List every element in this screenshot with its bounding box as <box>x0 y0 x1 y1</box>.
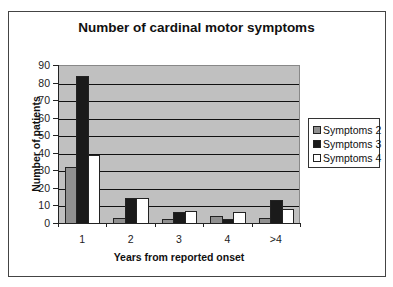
legend-swatch-symptoms-4 <box>313 154 321 162</box>
y-tick <box>53 188 58 189</box>
bar <box>185 211 198 224</box>
y-axis-title: Number of patients <box>30 84 42 204</box>
gridline <box>58 101 299 102</box>
x-tick <box>252 223 253 227</box>
y-tick <box>53 65 58 66</box>
legend-swatch-symptoms-2 <box>313 126 321 134</box>
y-tick <box>53 205 58 206</box>
chart-title: Number of cardinal motor symptoms <box>0 20 393 35</box>
x-tick-label: >4 <box>252 233 300 245</box>
legend-label: Symptoms 3 <box>323 138 381 150</box>
x-tick <box>203 223 204 227</box>
bar <box>233 212 246 224</box>
gridline <box>58 119 299 120</box>
y-tick <box>53 135 58 136</box>
x-tick-label: 2 <box>107 233 155 245</box>
legend-label: Symptoms 2 <box>323 124 381 136</box>
x-tick-label: 3 <box>155 233 203 245</box>
x-tick <box>106 223 107 227</box>
bar <box>88 155 101 224</box>
gridline <box>58 136 299 137</box>
legend-label: Symptoms 4 <box>323 152 381 164</box>
x-tick <box>58 223 59 227</box>
legend-item-symptoms-3: Symptoms 3 <box>313 137 381 151</box>
bar <box>136 198 149 224</box>
legend-item-symptoms-2: Symptoms 2 <box>313 123 381 137</box>
y-tick <box>53 153 58 154</box>
bar <box>282 209 295 224</box>
x-axis-title: Years from reported onset <box>58 251 300 263</box>
gridline <box>58 84 299 85</box>
legend: Symptoms 2 Symptoms 3 Symptoms 4 <box>308 118 380 168</box>
y-tick <box>53 100 58 101</box>
legend-swatch-symptoms-3 <box>313 140 321 148</box>
y-tick <box>53 170 58 171</box>
y-tick-label: 0 <box>26 217 50 229</box>
x-tick-label: 4 <box>203 233 251 245</box>
x-tick <box>300 223 301 227</box>
y-tick-label: 90 <box>26 59 50 71</box>
y-tick <box>53 83 58 84</box>
x-tick-label: 1 <box>58 233 106 245</box>
x-tick <box>155 223 156 227</box>
y-axis <box>58 65 59 224</box>
legend-item-symptoms-4: Symptoms 4 <box>313 151 381 165</box>
y-tick <box>53 118 58 119</box>
